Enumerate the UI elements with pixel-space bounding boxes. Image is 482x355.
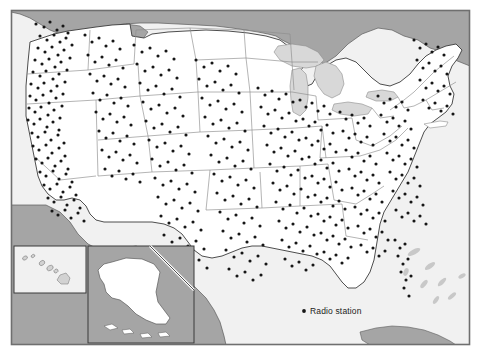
radio-station-dot — [101, 117, 104, 120]
radio-station-dot — [397, 124, 400, 127]
radio-station-dot — [299, 187, 302, 190]
radio-station-dot — [256, 86, 259, 89]
radio-station-dot — [334, 180, 337, 183]
radio-station-dot — [98, 98, 101, 101]
radio-station-dot — [283, 257, 286, 260]
radio-station-dot — [297, 260, 300, 263]
radio-station-dot — [211, 122, 214, 125]
radio-station-dot — [183, 225, 186, 228]
radio-station-dot — [217, 160, 220, 163]
alaska-inset — [88, 246, 194, 343]
radio-station-dot — [350, 186, 353, 189]
radio-station-dot — [376, 94, 379, 97]
radio-station-dot — [226, 64, 229, 67]
radio-station-dot — [418, 184, 421, 187]
radio-station-dot — [281, 207, 284, 210]
radio-station-dot — [391, 158, 394, 161]
radio-station-dot — [171, 149, 174, 152]
radio-station-dot — [288, 203, 291, 206]
radio-station-dot — [382, 132, 385, 135]
radio-station-dot — [33, 110, 36, 113]
radio-station-dot — [34, 98, 37, 101]
radio-station-dot — [418, 78, 421, 81]
radio-station-dot — [114, 150, 117, 153]
map-legend: Radio station — [302, 306, 362, 316]
radio-station-dot — [213, 80, 216, 83]
radio-station-dot — [26, 118, 29, 121]
radio-station-dot — [273, 108, 276, 111]
radio-station-dot — [365, 178, 368, 181]
radio-station-dot — [54, 96, 57, 99]
radio-station-dot — [442, 84, 445, 87]
radio-station-dot — [50, 45, 53, 48]
radio-station-dot — [36, 46, 39, 49]
radio-station-dot — [140, 50, 143, 53]
radio-station-dot — [122, 115, 125, 118]
radio-station-dot — [55, 28, 58, 31]
radio-station-dot — [409, 157, 412, 160]
radio-station-dot — [310, 143, 313, 146]
radio-station-dot — [241, 159, 244, 162]
radio-station-dot — [38, 117, 41, 120]
radio-station-dot — [203, 115, 206, 118]
radio-station-dot — [246, 148, 249, 151]
radio-station-dot — [56, 213, 59, 216]
radio-station-dot — [377, 211, 380, 214]
radio-station-dot — [227, 126, 230, 129]
radio-station-dot — [298, 230, 301, 233]
radio-station-dot — [394, 135, 397, 138]
radio-station-dot — [51, 120, 54, 123]
radio-station-dot — [265, 143, 268, 146]
radio-station-dot — [406, 257, 409, 260]
radio-station-dot — [253, 235, 256, 238]
radio-station-dot — [48, 20, 51, 23]
radio-station-dot — [297, 138, 300, 141]
radio-station-dot — [240, 251, 243, 254]
radio-station-dot — [394, 208, 397, 211]
radio-station-dot — [362, 189, 365, 192]
radio-station-dot — [294, 119, 297, 122]
radio-station-dot — [275, 169, 278, 172]
radio-station-dot — [70, 180, 73, 183]
radio-station-dot — [45, 38, 48, 41]
radio-station-dot — [424, 222, 427, 225]
radio-station-dot — [334, 253, 337, 256]
radio-station-dot — [436, 89, 439, 92]
radio-station-dot — [290, 264, 293, 267]
radio-station-dot — [418, 46, 421, 49]
radio-station-dot — [62, 48, 65, 51]
radio-station-dot — [210, 61, 213, 64]
radio-station-dot — [51, 169, 54, 172]
radio-station-dot — [291, 100, 294, 103]
radio-station-dot — [94, 110, 97, 113]
radio-station-dot — [200, 96, 203, 99]
radio-station-dot — [58, 40, 61, 43]
radio-station-dot — [412, 176, 415, 179]
radio-station-dot — [39, 105, 42, 108]
radio-station-dot — [215, 191, 218, 194]
radio-station-dot — [112, 101, 115, 104]
radio-station-dot — [196, 209, 199, 212]
radio-station-dot — [294, 241, 297, 244]
radio-station-dot — [165, 111, 168, 114]
radio-station-dot — [227, 267, 230, 270]
radio-station-dot — [382, 101, 385, 104]
radio-station-dot — [38, 34, 41, 37]
hawaii-inset — [14, 246, 86, 293]
radio-station-dot — [343, 207, 346, 210]
radio-station-dot — [48, 187, 51, 190]
radio-station-dot — [135, 161, 138, 164]
radio-station-dot — [116, 77, 119, 80]
radio-station-dot — [128, 153, 131, 156]
radio-station-dot — [118, 47, 121, 50]
radio-station-dot — [302, 206, 305, 209]
radio-station-dot — [110, 174, 113, 177]
radio-station-dot — [143, 69, 146, 72]
radio-station-dot — [282, 165, 285, 168]
radio-station-dot — [451, 112, 454, 115]
radio-station-dot — [153, 176, 156, 179]
radio-station-dot — [34, 22, 37, 25]
radio-station-dot — [119, 96, 122, 99]
radio-station-dot — [229, 236, 232, 239]
radio-station-dot — [149, 107, 152, 110]
